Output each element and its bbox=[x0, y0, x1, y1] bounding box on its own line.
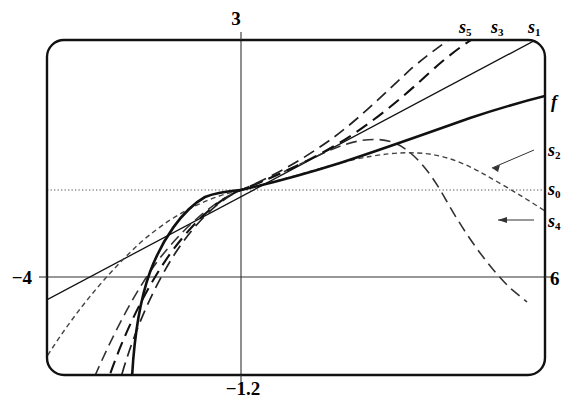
curve-label-s4-sub: 4 bbox=[555, 220, 561, 232]
curve-label-s1: s1 bbox=[528, 18, 541, 36]
curve-s3 bbox=[104, 28, 492, 392]
curve-label-s2: s2 bbox=[548, 141, 561, 159]
curve-label-s5-base: s bbox=[459, 17, 466, 37]
leader-arrow-s4 bbox=[498, 217, 507, 223]
curve-label-s4: s4 bbox=[548, 212, 561, 230]
taylor-series-plot bbox=[0, 0, 570, 404]
curve-label-s5-sub: 5 bbox=[466, 26, 472, 38]
curve-label-s1-sub: 1 bbox=[535, 26, 541, 38]
plot-frame bbox=[47, 40, 545, 375]
curve-s1 bbox=[41, 27, 560, 303]
figure-container: 3 −1.2 −4 6 s5 s3 s1 f s2 s0 s4 bbox=[0, 0, 570, 404]
curve-label-s2-sub: 2 bbox=[555, 149, 561, 161]
curve-label-s4-base: s bbox=[548, 211, 555, 231]
curve-label-s2-base: s bbox=[548, 140, 555, 160]
axis-label-bottom-minus1-2: −1.2 bbox=[226, 379, 261, 398]
axis-label-left-minus4: −4 bbox=[12, 268, 32, 287]
curve-label-s5: s5 bbox=[459, 18, 472, 36]
axis-label-right-6: 6 bbox=[550, 269, 560, 288]
curve-label-s0-sub: 0 bbox=[555, 188, 561, 200]
curve-label-s1-base: s bbox=[528, 17, 535, 37]
curve-label-s0-base: s bbox=[548, 179, 555, 199]
curve-label-s3-sub: 3 bbox=[498, 26, 504, 38]
leader-line-s2 bbox=[492, 150, 534, 168]
curve-f bbox=[132, 96, 545, 378]
plot-area bbox=[26, 27, 560, 392]
curve-label-s3: s3 bbox=[491, 18, 504, 36]
curve-s5 bbox=[117, 28, 467, 392]
curve-label-s3-base: s bbox=[491, 17, 498, 37]
axis-label-top-3: 3 bbox=[231, 9, 241, 28]
curve-label-s0: s0 bbox=[548, 180, 561, 198]
curve-label-f: f bbox=[551, 93, 557, 111]
